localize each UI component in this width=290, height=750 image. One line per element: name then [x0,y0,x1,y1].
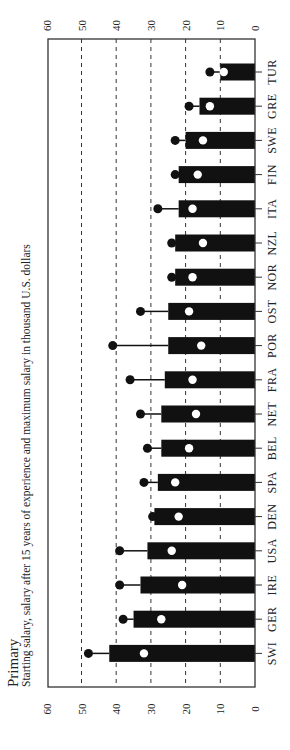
bar-group-net [136,406,255,423]
category-label: SWI [265,642,279,666]
max-salary-dot [108,341,117,350]
bar-group-spa [139,474,255,491]
chart-title: Primary [5,638,21,687]
bar-group-ost [136,303,255,320]
category-label: ITA [265,199,279,220]
max-salary-dot [139,478,148,487]
max-salary-dot [136,307,145,316]
max-salary-dot [126,375,135,384]
category-label: BEL [265,436,279,460]
bar-group-swe [171,132,255,149]
start-salary-dot [192,410,200,418]
bar-group-ger [119,611,255,628]
start-salary-dot [168,547,176,555]
bars [84,64,255,662]
bar-15yr [147,542,255,559]
tick-label-bottom: 50 [76,703,88,715]
tick-label-top: 60 [41,20,53,32]
bar-15yr [165,371,255,388]
bar-group-fin [171,166,255,183]
start-salary-dot [206,102,214,110]
category-label: SPA [265,471,279,493]
tick-label-top: 40 [110,20,122,32]
bar-group-usa [115,542,255,559]
bar-group-nzl [167,235,255,252]
tick-label-bottom: 0 [249,706,261,712]
category-label: POR [265,333,279,358]
max-salary-dot [136,410,145,419]
max-salary-dot [171,136,180,145]
start-salary-dot [178,581,186,589]
category-label: SWE [265,127,279,154]
bar-15yr [175,269,255,286]
start-salary-dot [199,239,207,247]
max-salary-dot [148,512,157,521]
tick-label-top: 20 [180,20,192,32]
start-salary-dot [197,341,205,349]
start-salary-dot [188,376,196,384]
tick-label-bottom: 20 [180,703,192,715]
tick-label-top: 0 [249,25,261,31]
tick-label-bottom: 30 [145,703,157,715]
category-label: DEN [265,504,279,530]
bar-15yr [161,440,255,457]
start-salary-dot [157,615,165,623]
max-salary-dot [167,273,176,282]
bar-group-ita [153,200,255,217]
bar-15yr [109,645,255,662]
bar-15yr [140,577,255,594]
max-salary-dot [167,239,176,248]
bar-15yr [168,303,255,320]
start-salary-dot [188,273,196,281]
category-label: TUR [265,59,279,85]
start-salary-dot [194,170,202,178]
category-label: GRE [265,93,279,119]
tick-label-top: 50 [76,20,88,32]
bar-group-bel [143,440,255,457]
start-salary-dot [185,307,193,315]
tick-label-bottom: 60 [41,703,53,715]
bar-group-den [148,508,255,525]
category-label: OST [265,299,279,323]
max-salary-dot [143,444,152,453]
bar-group-por [108,337,255,354]
bar-15yr [134,611,255,628]
start-salary-dot [220,68,228,76]
bar-group-gre [185,98,255,115]
tick-label-bottom: 40 [110,703,122,715]
category-label: NZL [265,231,279,256]
start-salary-dot [171,478,179,486]
max-salary-dot [171,170,180,179]
category-labels: TURGRESWEFINITANZLNOROSTPORFRANETBELSPAD… [255,59,279,665]
chart-subtitle: Starting salary, salary after 15 years o… [20,244,33,687]
max-salary-dot [84,649,93,658]
bar-group-fra [126,371,255,388]
bar-group-ire [115,577,255,594]
tick-label-bottom: 10 [214,703,226,715]
bar-15yr [154,508,255,525]
category-label: NOR [265,264,279,291]
max-salary-dot [185,102,194,111]
start-salary-dot [199,136,207,144]
bar-group-nor [167,269,255,286]
bar-15yr [179,166,255,183]
bar-group-tur [205,64,255,81]
start-salary-dot [188,205,196,213]
max-salary-dot [119,615,128,624]
category-label: FIN [265,164,279,185]
max-salary-dot [205,68,214,77]
bar-group-swi [84,645,255,662]
start-salary-dot [174,512,182,520]
category-label: NET [265,401,279,426]
tick-label-top: 30 [145,20,157,32]
category-label: IRE [265,575,279,596]
start-salary-dot [185,444,193,452]
tick-label-top: 10 [214,20,226,32]
bar-15yr [161,406,255,423]
start-salary-dot [140,649,148,657]
bar-15yr [175,235,255,252]
max-salary-dot [153,204,162,213]
bar-15yr [168,337,255,354]
category-label: USA [265,538,279,564]
max-salary-dot [115,581,124,590]
